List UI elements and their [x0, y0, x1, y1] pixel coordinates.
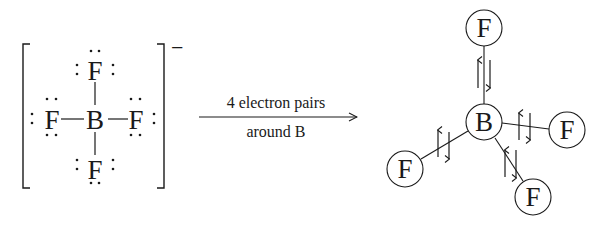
right-bracket — [157, 44, 164, 188]
geom-fluorine-atom-lower-left: F — [397, 154, 412, 184]
geom-bond-right — [502, 123, 549, 129]
geom-bond-bottom — [495, 138, 523, 181]
electron-pair-bottom — [505, 150, 516, 178]
fluorine-atom-top: F — [87, 56, 102, 86]
geom-fluorine-atom-top: F — [476, 13, 491, 43]
fluorine-atom-bottom: F — [87, 155, 102, 185]
charge-label: − — [171, 35, 183, 60]
geom-fluorine-atom-bottom: F — [525, 182, 540, 212]
geom-bond-lower-left — [421, 131, 468, 159]
geom-fluorine-atom-right: F — [559, 115, 574, 145]
lewis-structure: − B F F F F — [23, 35, 183, 188]
geom-boron-atom: B — [475, 107, 493, 137]
fluorine-atom-right: F — [128, 105, 143, 135]
bf4-diagram: − B F F F F — [0, 0, 610, 225]
electron-pair-geometry: B F F F F — [387, 10, 585, 215]
arrow-label-bottom: around B — [246, 123, 305, 140]
fluorine-atom-left: F — [44, 105, 59, 135]
electron-pair-lower-left — [438, 130, 449, 159]
boron-atom: B — [86, 105, 104, 135]
arrow-label-top: 4 electron pairs — [227, 94, 326, 112]
left-bracket — [23, 44, 30, 188]
transformation-arrow: 4 electron pairs around B — [199, 94, 357, 140]
